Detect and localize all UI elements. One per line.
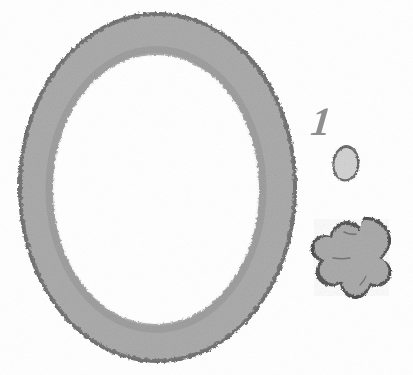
figure-illustration	[0, 0, 413, 375]
small-round-blob-shape	[332, 145, 359, 181]
figure-panel: 1	[0, 0, 413, 375]
figure-number-label: 1	[302, 100, 341, 144]
annulus-ring-shape	[0, 0, 413, 375]
lobed-flower-blob-shape	[310, 217, 391, 299]
